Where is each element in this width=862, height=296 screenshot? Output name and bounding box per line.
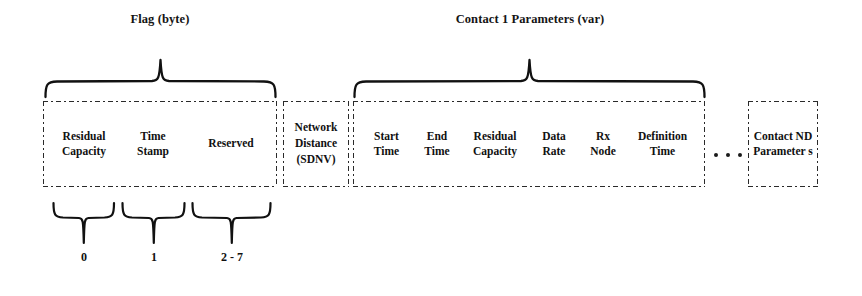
field-line-3: Parameter: [753, 145, 805, 157]
field-line-1: Start: [374, 129, 399, 144]
field-line-1: Residual: [473, 129, 517, 144]
field-line-1: Definition: [638, 129, 687, 144]
bit-label-0: 0: [44, 250, 124, 265]
field-line-2: Node: [590, 144, 616, 159]
contact1-group-brace: [353, 40, 707, 98]
field-line-4: s: [808, 145, 812, 157]
field-data-rate[interactable]: Data Rate: [531, 117, 577, 171]
field-line-1: Contact: [754, 130, 793, 142]
bit-brace-1: [121, 202, 187, 246]
field-line-2: Distance: [295, 137, 337, 149]
field-start-time[interactable]: Start Time: [362, 117, 411, 171]
field-line-2: Time: [638, 144, 687, 159]
field-residual-capacity-flag[interactable]: Residual Capacity: [53, 117, 115, 171]
bit-label-2-7: 2 - 7: [192, 250, 272, 265]
field-line-1: Rx: [590, 129, 616, 144]
field-rx-node[interactable]: Rx Node: [581, 117, 625, 171]
field-end-time[interactable]: End Time: [415, 117, 459, 171]
network-distance-label: Network Distance (SDNV): [283, 112, 349, 176]
field-time-stamp[interactable]: Time Stamp: [121, 117, 185, 171]
field-line-2: ND: [796, 130, 813, 142]
flag-group-brace: [44, 40, 278, 98]
field-line-1: Residual: [62, 129, 106, 144]
field-line-1: Data: [542, 129, 566, 144]
field-line-2: Capacity: [473, 144, 517, 159]
field-line-3: (SDNV): [297, 153, 336, 165]
field-line-1: Reserved: [208, 136, 253, 151]
field-line-2: Time: [424, 144, 449, 159]
field-line-1: End: [424, 129, 449, 144]
field-line-2: Time: [374, 144, 399, 159]
continuation-ellipsis-icon: [714, 152, 742, 158]
field-line-2: Capacity: [62, 144, 106, 159]
bit-label-1: 1: [114, 250, 194, 265]
field-line-1: Network: [295, 121, 338, 133]
bit-brace-2-7: [191, 202, 273, 246]
field-line-2: Stamp: [137, 144, 169, 159]
field-residual-capacity-contact[interactable]: Residual Capacity: [463, 117, 527, 171]
field-line-2: Rate: [542, 144, 566, 159]
field-reserved[interactable]: Reserved: [191, 117, 271, 171]
flag-group-caption: Flag (byte): [60, 12, 260, 27]
diagram-canvas: Flag (byte) Contact 1 Parameters (var) R…: [0, 0, 862, 296]
field-line-1: Time: [137, 129, 169, 144]
bit-brace-0: [52, 202, 116, 246]
field-definition-time[interactable]: Definition Time: [629, 117, 696, 171]
contact1-group-caption: Contact 1 Parameters (var): [430, 12, 630, 27]
contact-nd-label: Contact ND Parameter s: [748, 106, 818, 182]
